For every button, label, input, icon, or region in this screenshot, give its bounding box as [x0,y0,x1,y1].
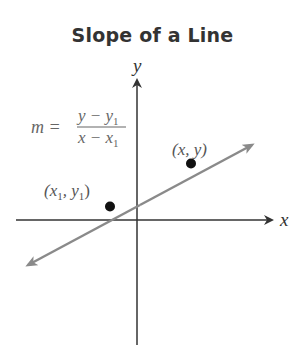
point-x1-y1-label: (x1, y1) [44,181,90,202]
coordinate-plane: y x (x, y) (x1, y1) m = y − y1 x − x1 [0,0,305,353]
point-x-y-label: (x, y) [172,140,207,159]
point-x1-y1 [105,202,115,212]
svg-text:x − x1: x − x1 [77,128,119,149]
svg-text:y − y1: y − y1 [76,106,119,127]
svg-text:m =: m = [31,117,61,137]
point-x-y [186,159,196,169]
sloped-line-lower [28,205,140,265]
x-axis-label: x [279,209,289,230]
y-axis-label: y [131,55,142,76]
slope-formula: m = y − y1 x − x1 [31,106,126,149]
